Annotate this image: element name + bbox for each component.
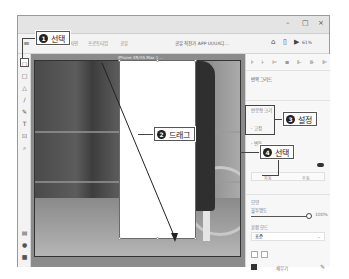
opacity-value[interactable]: 100% <box>315 212 328 217</box>
home-icon[interactable]: ⌂ <box>271 38 275 46</box>
hamburger-menu-icon[interactable]: ≡ <box>23 39 30 48</box>
zoom-level[interactable]: 61% <box>302 40 312 45</box>
artboard-tool-icon[interactable]: ⊡ <box>20 131 29 140</box>
mobile-preview-icon[interactable]: ▯ <box>283 38 287 46</box>
close-button[interactable]: × <box>318 19 324 27</box>
layers-icon[interactable]: ● <box>20 240 29 249</box>
blend-mode-label: 혼합 모드 <box>251 224 268 230</box>
segment-manual[interactable]: 수동 <box>302 175 310 181</box>
maximize-button[interactable]: □ <box>302 19 309 27</box>
chevron-down-icon: ⌄ <box>317 233 321 241</box>
blend-mode-value: 표준 <box>255 234 263 239</box>
callout-3-set: 3 설정 <box>283 112 317 126</box>
select-tool-icon[interactable]: ▢ <box>20 58 29 67</box>
responsive-options-highlight <box>245 105 275 135</box>
fill-checkbox[interactable] <box>251 264 257 270</box>
opacity-label: 불투명도 <box>251 207 267 213</box>
callout-1-select: 1 선택 <box>36 31 70 45</box>
corner-radius-each-icon[interactable] <box>261 251 268 258</box>
property-inspector: ⊧ ⊦ ⊨ ≡ ⊩ ⊪ ⊫ 반복 그리드 반응형 크기 - 고정 - 변동 자동… <box>245 54 330 267</box>
design-canvas[interactable]: iPhone XR/XS Max 1 ... <box>31 54 245 267</box>
repeat-grid-label: 반복 그리드 <box>251 77 272 82</box>
resize-mode-segment[interactable]: 자동 수동 <box>251 172 325 181</box>
pen-tool-icon[interactable]: ✎ <box>20 107 29 116</box>
artboard-rectangle[interactable] <box>119 60 196 239</box>
appearance-label: 모양 <box>251 199 259 205</box>
toggle-switch[interactable] <box>317 163 324 167</box>
plugins-icon[interactable]: ■ <box>20 252 29 261</box>
callout-4-select: 4 선택 <box>260 145 294 159</box>
tab-share[interactable]: 공유 <box>120 40 128 46</box>
tool-bar: ▢ □ △ / ✎ T ⊡ ⌕ ▤ ● ■ <box>18 54 31 267</box>
text-tool-icon[interactable]: T <box>20 119 29 128</box>
zoom-tool-icon[interactable]: ⌕ <box>20 143 29 152</box>
blend-mode-select[interactable]: 표준 ⌄ <box>251 232 325 241</box>
corner-radius-icon[interactable] <box>251 251 258 258</box>
triangle-tool-icon[interactable]: △ <box>20 83 29 92</box>
minimize-button[interactable]: – <box>286 19 290 27</box>
fill-label: 채우기 <box>276 265 288 271</box>
opacity-slider-knob[interactable] <box>306 213 312 219</box>
document-title: 공유 직전가 APP UI/UX디... <box>175 40 229 46</box>
assets-icon[interactable]: ▤ <box>20 228 29 237</box>
opacity-slider-track[interactable] <box>251 216 309 217</box>
app-window: – □ × ≡ 디자인 프로토타입 공유 공유 직전가 APP UI/UX디..… <box>17 15 330 267</box>
callout-2-drag: 2 드래그 <box>154 127 195 141</box>
repeat-grid-button[interactable]: 반복 그리드 <box>251 75 326 85</box>
rectangle-tool-icon[interactable]: □ <box>20 71 29 80</box>
eyedropper-icon[interactable]: ✎ <box>320 263 325 270</box>
line-tool-icon[interactable]: / <box>20 95 29 104</box>
tab-prototype[interactable]: 프로토타입 <box>88 40 108 46</box>
play-icon[interactable]: ▶ <box>294 38 299 46</box>
align-icons[interactable]: ⊧ ⊦ ⊨ ≡ ⊩ ⊪ ⊫ <box>251 59 330 65</box>
